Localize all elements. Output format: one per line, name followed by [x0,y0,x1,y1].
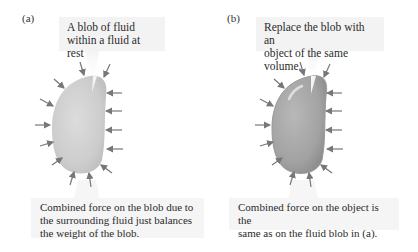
callout-b: Replace the blob with an object of the s… [256,17,384,51]
caption-a-line-1: Combined force on the blob due to [40,201,195,214]
caption-b-line-2: same as on the fluid blob in (a). [238,227,390,240]
callout-b-line-1: Replace the blob with an [264,21,376,47]
caption-a-line-2: the surrounding fluid just balances [40,214,195,227]
caption-a: Combined force on the blob due to the su… [31,198,204,238]
panel-label-b: (b) [227,12,240,24]
caption-pointer-b [288,180,318,200]
caption-b-line-1: Combined force on the object is the [238,201,390,227]
callout-a-line-2: within a fluid at rest [67,34,157,60]
callout-b-line-2: object of the same volume. [264,47,376,73]
caption-pointer-a [74,180,100,200]
caption-a-line-3: the weight of the blob. [40,227,195,240]
callout-a-line-1: A blob of fluid [67,21,157,34]
callout-a: A blob of fluid within a fluid at rest [59,17,165,51]
panel-label-a: (a) [22,12,34,24]
caption-b: Combined force on the object is the same… [229,198,399,230]
